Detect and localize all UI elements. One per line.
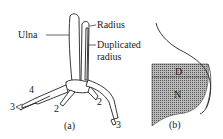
region-label-d: D <box>175 67 182 77</box>
caption-a: (a) <box>64 121 75 131</box>
digit-number-3-right: 3 <box>116 120 121 130</box>
label-radius: Radius <box>97 20 125 30</box>
label-duplicated-radius-2: radius <box>97 52 121 62</box>
label-ulna: Ulna <box>18 30 37 40</box>
digit-number-2-lower: 2 <box>54 104 59 114</box>
label-duplicated-radius-1: Duplicated <box>97 40 141 50</box>
digit-number-4: 4 <box>29 85 34 95</box>
caption-b: (b) <box>169 120 181 130</box>
digit-number-2-right: 2 <box>97 97 102 107</box>
digit-number-3-left: 3 <box>10 102 15 112</box>
region-label-n: N <box>174 90 181 100</box>
